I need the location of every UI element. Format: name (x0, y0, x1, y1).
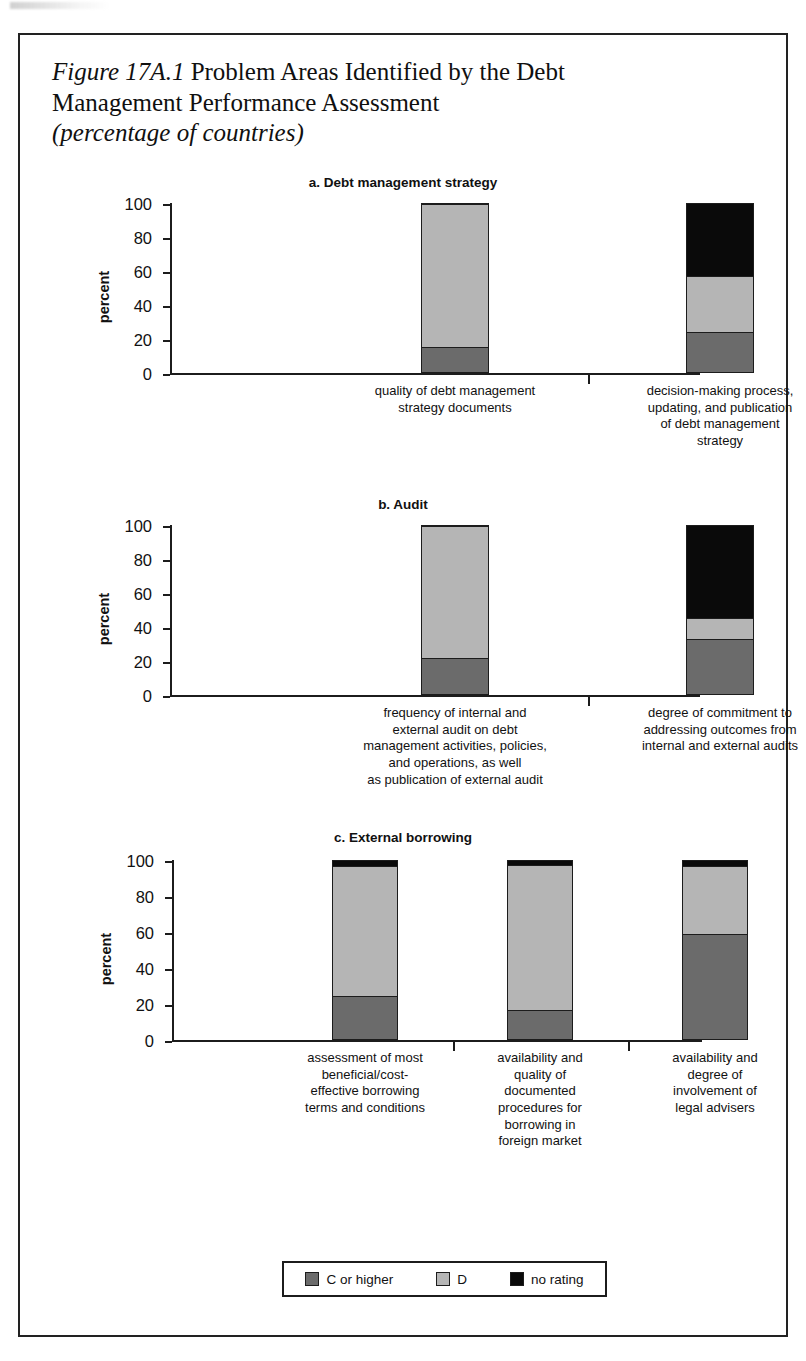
panel-c-title: c. External borrowing (20, 830, 786, 845)
y-tick: 0 (163, 374, 170, 376)
y-tick-label: 80 (134, 551, 152, 570)
category-label-line: quality of (465, 1067, 615, 1084)
bar-segment-d (683, 866, 747, 934)
chart-legend: C or higherDno rating (282, 1261, 607, 1297)
y-axis-a (170, 203, 172, 375)
category-label: availability anddegree ofinvolvement ofl… (640, 1050, 790, 1117)
bar-segment-d (422, 526, 488, 658)
category-label: assessment of mostbeneficial/cost-effect… (290, 1050, 440, 1117)
bar-segment-c-or-higher (683, 934, 747, 1039)
y-tick: 80 (165, 897, 172, 899)
legend-label: D (457, 1272, 467, 1287)
y-tick-label: 100 (124, 517, 152, 536)
y-axis-label-b: percent (96, 593, 112, 645)
y-tick: 0 (163, 696, 170, 698)
category-label-line: borrowing in (465, 1117, 615, 1134)
y-tick-label: 0 (143, 365, 152, 384)
x-axis-b (170, 695, 700, 697)
category-label-line: documented (465, 1083, 615, 1100)
bar-segment-c-or-higher (422, 658, 488, 694)
bar-segment-no-rating (687, 526, 753, 618)
legend-swatch-c-or-higher (305, 1272, 319, 1286)
y-tick-label: 60 (134, 263, 152, 282)
y-tick-label: 40 (134, 297, 152, 316)
y-tick: 60 (163, 272, 170, 274)
y-tick-label: 100 (124, 195, 152, 214)
bar-segment-d (508, 865, 572, 1010)
stacked-bar (332, 860, 398, 1040)
legend-item: no rating (510, 1272, 584, 1287)
stacked-bar (686, 525, 754, 695)
y-tick: 80 (163, 560, 170, 562)
category-label-line: legal advisers (640, 1100, 790, 1117)
category-label-line: foreign market (465, 1133, 615, 1150)
y-tick-label: 20 (136, 996, 154, 1015)
figure-number: Figure 17A.1 (52, 58, 184, 85)
legend-item: C or higher (305, 1272, 393, 1287)
y-tick-label: 20 (134, 653, 152, 672)
y-axis-c (172, 860, 174, 1042)
y-tick-label: 0 (143, 687, 152, 706)
panel-a-title: a. Debt management strategy (20, 175, 786, 190)
x-tick (588, 375, 590, 384)
panel-audit: b. Audit percent 020406080100 frequency … (20, 497, 786, 747)
y-tick: 100 (163, 204, 170, 206)
bar-segment-no-rating (687, 204, 753, 276)
y-axis-label-a: percent (96, 271, 112, 323)
scan-artifact (10, 2, 110, 9)
bar-segment-c-or-higher (422, 347, 488, 372)
plot-area-c: percent 020406080100 (172, 860, 702, 1042)
y-tick-label: 60 (134, 585, 152, 604)
category-label-line: availability and (640, 1050, 790, 1067)
legend-swatch-no-rating (510, 1272, 524, 1286)
figure-subtitle: (percentage of countries) (52, 118, 752, 149)
category-label-line: decision-making process, (605, 383, 806, 400)
x-tick (588, 697, 590, 706)
bar-segment-d (687, 618, 753, 638)
category-label-line: frequency of internal and (328, 705, 583, 722)
category-label: availability andquality ofdocumentedproc… (465, 1050, 615, 1150)
category-label: frequency of internal andexternal audit … (328, 705, 583, 788)
category-label-line: assessment of most (290, 1050, 440, 1067)
category-label-line: and operations, as well (328, 755, 583, 772)
x-tick (628, 1042, 630, 1051)
y-tick: 40 (163, 628, 170, 630)
y-tick: 100 (163, 526, 170, 528)
category-label-line: management activities, policies, (328, 738, 583, 755)
figure-title: Figure 17A.1 Problem Areas Identified by… (52, 57, 752, 149)
bar-segment-c-or-higher (687, 332, 753, 372)
stacked-bar (507, 860, 573, 1040)
category-label-line: updating, and publication (605, 400, 806, 417)
y-tick: 100 (165, 861, 172, 863)
bar-segment-d (333, 866, 397, 996)
category-label-line: degree of (640, 1067, 790, 1084)
bar-segment-d (422, 204, 488, 347)
figure-title-line1: Problem Areas Identified by the Debt (184, 58, 564, 85)
category-label: decision-making process,updating, and pu… (605, 383, 806, 450)
category-label-line: involvement of (640, 1083, 790, 1100)
bar-segment-d (687, 276, 753, 331)
category-label-line: as publication of external audit (328, 772, 583, 789)
y-tick: 60 (163, 594, 170, 596)
stacked-bar (421, 525, 489, 695)
panel-debt-management-strategy: a. Debt management strategy percent 0204… (20, 175, 786, 420)
stacked-bar (682, 860, 748, 1040)
plot-area-b: percent 020406080100 (170, 525, 700, 697)
y-tick: 40 (165, 969, 172, 971)
y-tick: 40 (163, 306, 170, 308)
category-label-line: strategy (605, 433, 806, 450)
category-label-line: addressing outcomes from (593, 722, 806, 739)
y-tick: 20 (165, 1005, 172, 1007)
category-label-line: quality of debt management (340, 383, 570, 400)
legend-label: C or higher (326, 1272, 393, 1287)
y-tick-label: 20 (134, 331, 152, 350)
y-tick-label: 60 (136, 924, 154, 943)
category-label: degree of commitment toaddressing outcom… (593, 705, 806, 755)
y-tick-label: 80 (136, 888, 154, 907)
figure-frame: Figure 17A.1 Problem Areas Identified by… (18, 33, 788, 1337)
category-label-line: effective borrowing (290, 1083, 440, 1100)
y-axis-label-c: percent (98, 933, 114, 985)
legend-item: D (436, 1272, 467, 1287)
x-tick (453, 1042, 455, 1051)
y-tick-label: 100 (126, 852, 154, 871)
